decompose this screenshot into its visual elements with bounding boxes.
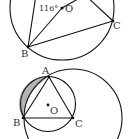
figure-top: 116° O B C bbox=[10, 0, 121, 60]
point-o bbox=[60, 6, 63, 9]
label-o: O bbox=[65, 3, 73, 14]
point-a bbox=[48, 76, 51, 79]
figure-bottom: A O B C bbox=[13, 65, 122, 139]
label-a: A bbox=[41, 65, 50, 76]
label-b: B bbox=[13, 117, 20, 128]
angle-label: 116° bbox=[39, 4, 58, 13]
label-o: O bbox=[50, 105, 58, 116]
point-c bbox=[72, 117, 75, 120]
point-b bbox=[22, 117, 25, 120]
label-c: C bbox=[75, 118, 83, 129]
point-o bbox=[47, 104, 50, 107]
label-b: B bbox=[21, 48, 28, 59]
chord-c-top bbox=[85, 0, 113, 21]
shaded-region bbox=[19, 77, 49, 118]
geometry-figures: 116° O B C A O B C bbox=[0, 0, 131, 139]
label-c: C bbox=[113, 20, 121, 31]
